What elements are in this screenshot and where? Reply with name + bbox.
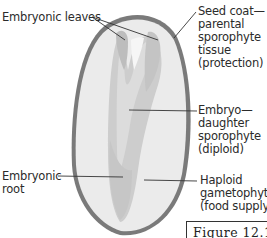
label-embryo: Embryo— daughter sporophyte (diploid) xyxy=(198,104,261,156)
figure-caption: Figure 12.1 xyxy=(186,221,267,238)
label-embryonic-root: Embryonic root xyxy=(2,170,61,196)
label-seed-coat: Seed coat— parental sporophyte tissue (p… xyxy=(198,5,265,70)
label-embryonic-leaves: Embryonic leaves xyxy=(2,11,101,24)
leader-seed-coat xyxy=(174,12,196,38)
label-haploid-gametophyte: Haploid gametophyte (food supply) xyxy=(200,174,267,213)
